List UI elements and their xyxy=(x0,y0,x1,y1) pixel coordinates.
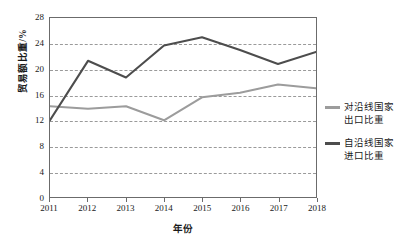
y-tick-label: 4 xyxy=(18,167,44,177)
x-tick-label: 2015 xyxy=(182,203,222,213)
chart-legend: 对沿线国家 出口比重自沿线国家 进口比重 xyxy=(325,101,401,173)
x-tick-label: 2013 xyxy=(106,203,146,213)
y-axis-tick-labels: 0481216202428 xyxy=(18,12,44,202)
x-tick-mark xyxy=(164,198,165,202)
x-tick-label: 2017 xyxy=(259,203,299,213)
x-tick-label: 2012 xyxy=(67,203,107,213)
x-tick-label: 2011 xyxy=(29,203,69,213)
y-tick-label: 24 xyxy=(18,38,44,48)
legend-label: 自沿线国家 进口比重 xyxy=(344,137,394,162)
x-tick-mark xyxy=(126,198,127,202)
y-tick-label: 12 xyxy=(18,115,44,125)
x-tick-mark xyxy=(202,198,203,202)
y-tick-label: 0 xyxy=(18,193,44,203)
legend-entry[interactable]: 自沿线国家 进口比重 xyxy=(325,137,401,162)
series-line-1 xyxy=(50,84,316,120)
x-tick-label: 2018 xyxy=(297,203,337,213)
series-lines xyxy=(50,18,316,197)
x-tick-mark xyxy=(49,198,50,202)
y-tick-label: 20 xyxy=(18,64,44,74)
legend-line-swatch xyxy=(325,142,340,145)
chart-figure: 贸易额比重/% 0481216202428 年份 对沿线国家 出口比重自沿线国家… xyxy=(0,0,401,250)
legend-line-swatch xyxy=(325,106,340,109)
y-tick-label: 8 xyxy=(18,141,44,151)
legend-entry[interactable]: 对沿线国家 出口比重 xyxy=(325,101,401,126)
x-tick-mark xyxy=(317,198,318,202)
x-tick-mark xyxy=(279,198,280,202)
x-axis-title: 年份 xyxy=(49,221,317,235)
plot-area xyxy=(49,17,317,198)
x-tick-label: 2014 xyxy=(144,203,184,213)
y-tick-label: 28 xyxy=(18,12,44,22)
y-tick-label: 16 xyxy=(18,90,44,100)
legend-label: 对沿线国家 出口比重 xyxy=(344,101,394,126)
x-tick-label: 2016 xyxy=(220,203,260,213)
x-tick-mark xyxy=(87,198,88,202)
x-tick-mark xyxy=(240,198,241,202)
